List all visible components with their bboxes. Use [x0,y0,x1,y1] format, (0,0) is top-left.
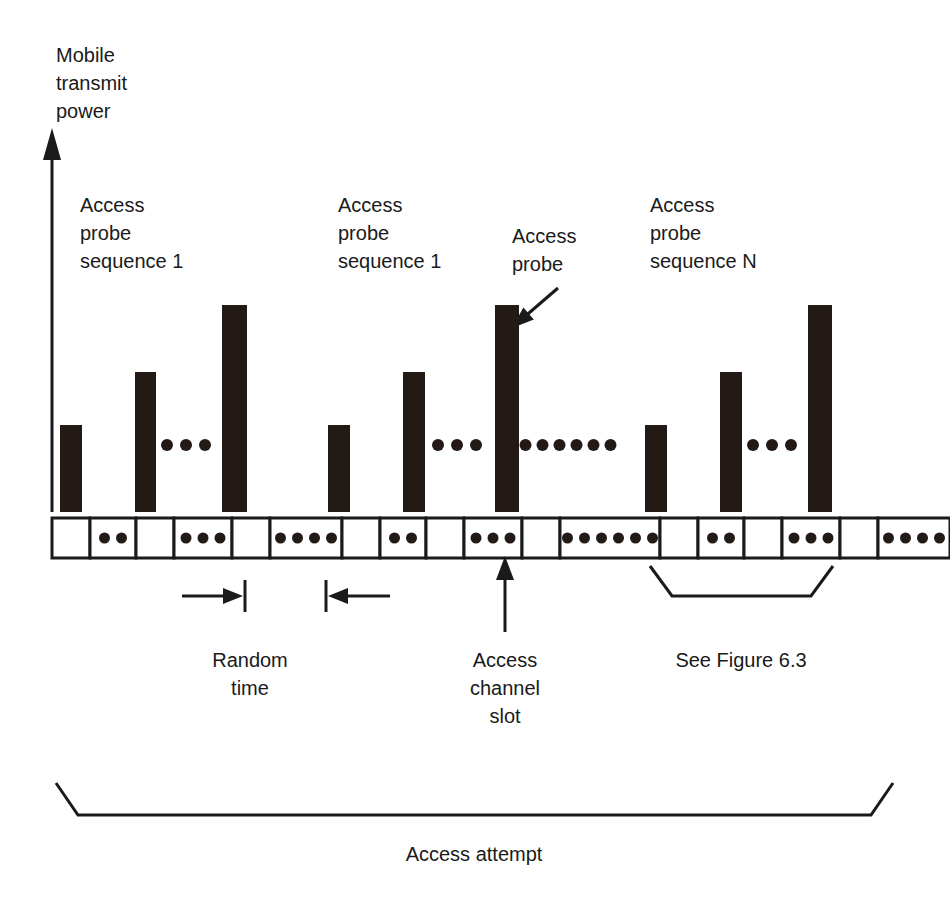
slot-dot [198,533,209,544]
ellipsis-dot [180,439,192,451]
seq-left-line-1: Access [80,194,144,216]
access-channel-slot [52,518,90,558]
channel-slot-label-line-2: channel [470,677,540,699]
ellipsis-dot [537,439,549,451]
slot-dot [579,533,590,544]
slot-dot [596,533,607,544]
slot-dot [883,533,894,544]
access-channel-slot [342,518,380,558]
slot-dot [181,533,192,544]
slot-dot [389,533,400,544]
slot-dot [724,533,735,544]
slot-dot [326,533,337,544]
seq-n-line-1: Access [650,194,714,216]
access-channel-slot [698,518,744,558]
probe-bar [135,372,156,512]
slot-dot [823,533,834,544]
probe-callout-line-2: probe [512,253,563,275]
slot-dot [647,533,658,544]
probe-callout-line-1: Access [512,225,576,247]
slot-dot [99,533,110,544]
slot-dot [934,533,945,544]
ellipsis-dot [520,439,532,451]
ellipsis-dot [470,439,482,451]
slot-dot [488,533,499,544]
ellipsis-dot [588,439,600,451]
slot-dot [917,533,928,544]
random-time-label-line-2: time [231,677,269,699]
y-axis-title-line-2: transmit [56,72,128,94]
access-channel-slot [560,518,660,558]
access-channel-slot [90,518,136,558]
seq-mid-line-1: Access [338,194,402,216]
slot-dot [215,533,226,544]
ellipsis-dot [161,439,173,451]
ellipsis-dot [766,439,778,451]
ellipsis-dot [605,439,617,451]
access-probe-timing-diagram: Mobile transmit power Access probe seque… [0,0,950,905]
access-channel-slot [744,518,782,558]
seq-n-line-3: sequence N [650,250,757,272]
slot-dot [406,533,417,544]
seq-left-line-3: sequence 1 [80,250,183,272]
slot-dot [562,533,573,544]
slot-dot [630,533,641,544]
slot-dot [900,533,911,544]
slot-dot [789,533,800,544]
slot-dot [292,533,303,544]
ellipsis-dot [785,439,797,451]
access-channel-slot [840,518,878,558]
seq-n-line-2: probe [650,222,701,244]
slot-dot [275,533,286,544]
random-time-label-line-1: Random [212,649,288,671]
probe-bar [495,305,519,512]
access-attempt-label: Access attempt [406,843,543,865]
ellipsis-dot [747,439,759,451]
probe-bar [808,305,832,512]
see-figure-label: See Figure 6.3 [675,649,806,671]
access-channel-slot-row [52,518,950,558]
seq-mid-line-2: probe [338,222,389,244]
access-channel-slot [426,518,464,558]
access-channel-slot [232,518,270,558]
access-channel-slot [522,518,560,558]
probe-bar [720,372,742,512]
slot-dot [707,533,718,544]
y-axis-title-line-3: power [56,100,111,122]
ellipsis-dot [571,439,583,451]
figure-root: Mobile transmit power Access probe seque… [0,0,950,905]
seq-left-line-2: probe [80,222,131,244]
access-channel-slot [660,518,698,558]
slot-dot [806,533,817,544]
access-channel-slot [136,518,174,558]
slot-dot [613,533,624,544]
slot-dot [471,533,482,544]
probe-bar [645,425,667,512]
channel-slot-label-line-3: slot [489,705,521,727]
y-axis-title-line-1: Mobile [56,44,115,66]
slot-dot [116,533,127,544]
slot-dot [309,533,320,544]
access-channel-slot [380,518,426,558]
channel-slot-label-line-1: Access [473,649,537,671]
ellipsis-dot [554,439,566,451]
ellipsis-dot [432,439,444,451]
slot-dot [505,533,516,544]
probe-bar [222,305,247,512]
seq-mid-line-3: sequence 1 [338,250,441,272]
probe-bar [60,425,82,512]
probe-bar [328,425,350,512]
ellipsis-dot [199,439,211,451]
probe-bar [403,372,425,512]
ellipsis-dot [451,439,463,451]
